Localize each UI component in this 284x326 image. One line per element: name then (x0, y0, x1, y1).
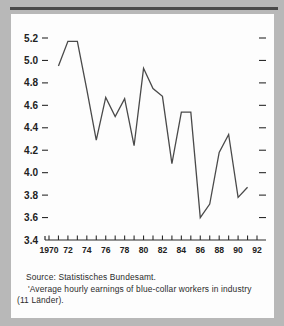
y-tick-label: 4.8 (24, 77, 38, 88)
y-tick-label: 3.4 (24, 235, 38, 246)
line-chart: 5.25.04.84.64.44.24.03.83.63.4 197072747… (11, 14, 274, 266)
x-tick-label: 92 (252, 245, 262, 255)
caption-note-line-2: (11 Länder). (17, 295, 64, 305)
y-axis-ticks-left (42, 38, 48, 218)
y-tick-label: 5.2 (24, 33, 38, 44)
y-tick-label: 3.6 (24, 212, 38, 223)
x-axis-tick-labels: 19707274767880828486889092 (39, 245, 262, 255)
caption-block: Source: Statistisches Bundesamt. 'Averag… (11, 272, 274, 307)
y-tick-label: 4.6 (24, 100, 38, 111)
y-tick-label: 3.8 (24, 190, 38, 201)
x-axis-ticks (49, 236, 257, 241)
caption-note-line-1: 'Average hourly earnings of blue-collar … (17, 284, 252, 294)
figure-card: 5.25.04.84.64.44.24.03.83.63.4 197072747… (11, 14, 274, 318)
x-tick-label: 80 (139, 245, 149, 255)
y-tick-label: 5.0 (24, 55, 38, 66)
x-tick-label: 72 (63, 245, 73, 255)
x-tick-label: 86 (195, 245, 205, 255)
data-series-line (58, 41, 247, 217)
chart-svg: 5.25.04.84.64.44.24.03.83.63.4 197072747… (11, 14, 274, 266)
top-horizontal-rule (10, 7, 278, 10)
figure-root: 5.25.04.84.64.44.24.03.83.63.4 197072747… (0, 0, 284, 326)
x-tick-label: 1970 (39, 245, 58, 255)
y-tick-label: 4.4 (24, 122, 38, 133)
x-tick-label: 84 (177, 245, 187, 255)
x-tick-label: 82 (158, 245, 168, 255)
series-line-average-hourly-earnings (58, 41, 247, 217)
x-tick-label: 78 (120, 245, 130, 255)
x-tick-label: 76 (101, 245, 111, 255)
x-axis-line (45, 236, 266, 240)
x-tick-label: 74 (82, 245, 92, 255)
y-tick-label: 4.0 (24, 167, 38, 178)
caption-source: Source: Statistisches Bundesamt. (17, 272, 266, 284)
y-tick-label: 4.2 (24, 145, 38, 156)
caption-note: 'Average hourly earnings of blue-collar … (17, 284, 266, 307)
x-tick-label: 88 (214, 245, 224, 255)
y-axis-ticks-right (259, 38, 266, 218)
y-axis-tick-labels: 5.25.04.84.64.44.24.03.83.63.4 (24, 33, 38, 246)
x-tick-label: 90 (233, 245, 243, 255)
